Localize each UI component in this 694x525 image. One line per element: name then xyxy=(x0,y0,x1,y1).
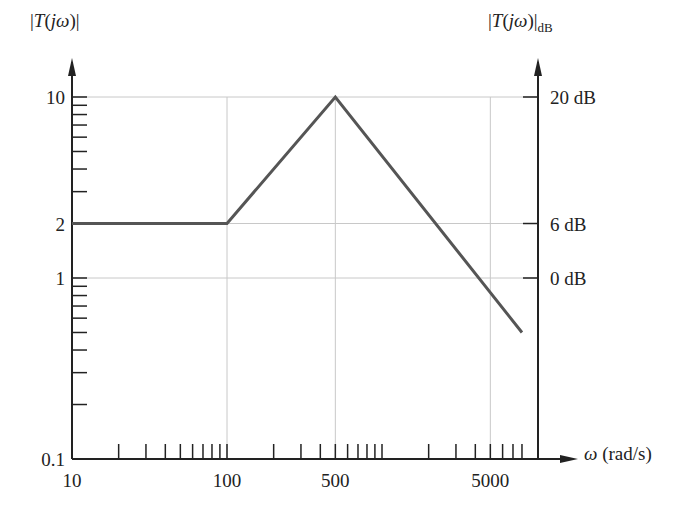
y-left-tick-label: 2 xyxy=(56,214,66,235)
tick-labels: 10100500500010210.120 dB6 dB0 dB xyxy=(41,87,596,491)
grid-lines xyxy=(72,97,538,459)
y-right-axis-label: |T(jω)|dB xyxy=(488,10,553,35)
y-left-tick-label: 1 xyxy=(56,268,66,289)
y-left-tick-label: 10 xyxy=(46,87,65,108)
y-left-tick-label: 0.1 xyxy=(41,449,65,470)
y-right-arrow-icon xyxy=(534,58,542,76)
y-right-tick-label: 6 dB xyxy=(550,214,586,235)
y-right-tick-label: 20 dB xyxy=(550,87,596,108)
x-tick-label: 500 xyxy=(321,470,350,491)
labels: |T(jω)| |T(jω)|dB ω (rad/s) xyxy=(30,10,652,465)
x-axis-label: ω (rad/s) xyxy=(584,443,652,465)
x-tick-label: 5000 xyxy=(471,470,509,491)
axes xyxy=(68,58,578,463)
bode-magnitude-chart: |T(jω)| |T(jω)|dB ω (rad/s) 101005005000… xyxy=(0,0,694,525)
x-tick-label: 100 xyxy=(213,470,242,491)
y-left-arrow-icon xyxy=(68,58,76,76)
x-arrow-icon xyxy=(560,455,578,463)
y-right-tick-label: 0 dB xyxy=(550,268,586,289)
x-tick-label: 10 xyxy=(63,470,82,491)
magnitude-curve xyxy=(72,97,522,332)
y-left-axis-label: |T(jω)| xyxy=(30,10,80,32)
